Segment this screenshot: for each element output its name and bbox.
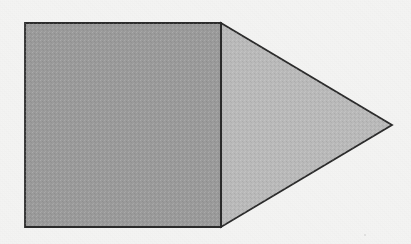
shaded-triangle-grain [221, 23, 392, 227]
shape-diagram [0, 0, 411, 244]
figure-canvas [0, 0, 411, 244]
shaded-square-grain [25, 23, 221, 227]
